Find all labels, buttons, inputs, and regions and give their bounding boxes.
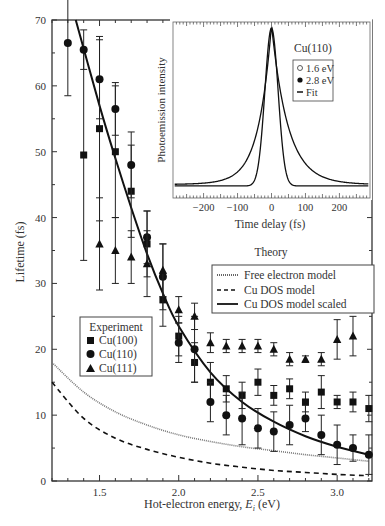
y-tick-label: 50 [35,146,47,158]
inset-legend-2-8ev: 2.8 eV [306,75,334,86]
inset-x-tick-label: −200 [193,202,215,213]
data-point-cu111 [349,332,357,340]
data-point-cu110 [222,411,230,419]
data-point-cu100 [349,398,356,405]
data-point-cu110 [349,444,357,452]
data-point-cu110 [333,441,341,449]
y-tick-label: 20 [35,343,47,355]
data-point-cu110 [80,46,88,54]
y-tick-label: 40 [35,212,47,224]
y-axis-label: Lifetime (fs) [13,222,27,283]
lifetime-chart: 0102030405060701.52.02.53.0 Lifetime (fs… [0,0,385,526]
legend-entry-cu110: Cu(110) [99,348,137,361]
data-point-cu100 [318,389,325,396]
data-point-cu110 [127,161,135,169]
square-marker-icon [87,337,94,344]
inset-legend-fit: Fit [306,87,318,98]
data-point-cu110 [111,105,119,113]
legend-entry-cu100: Cu(100) [99,334,138,347]
legend-entry-cu111: Cu(111) [99,362,137,375]
theory-legend: Theory Free electron model Cu DOS model … [212,246,374,313]
open-circle-marker-icon [298,66,303,71]
experiment-legend: Experiment Cu(100) Cu(110) Cu(111) [80,317,152,376]
y-tick-label: 70 [35,14,47,26]
inset-legend-1-6ev: 1.6 eV [306,63,334,74]
data-point-cu111 [254,341,262,349]
data-point-cu111 [127,253,135,261]
data-point-cu111 [175,305,183,313]
legend-entry-cu-dos: Cu DOS model [244,284,315,296]
filled-circle-marker-icon [297,77,302,82]
inset-x-axis-label: Time delay (fs) [235,218,306,231]
data-point-cu111 [159,266,167,274]
inset-y-axis-label: Photoemission intensity [155,57,167,163]
data-point-cu100 [112,148,119,155]
data-point-cu110 [270,428,278,436]
y-tick-label: 0 [41,475,47,487]
x-tick-label: 1.5 [93,486,107,498]
circle-marker-icon [87,350,95,358]
x-axis-label: Hot-electron energy, Ei (eV) [144,497,280,513]
inset-x-tick-label: −100 [227,202,249,213]
inset-x-tick-label: 200 [332,202,348,213]
data-point-cu110 [365,451,373,459]
data-point-cu111 [95,239,103,247]
data-point-cu111 [285,355,293,363]
data-point-cu111 [206,338,214,346]
data-point-cu111 [111,246,119,254]
data-point-cu111 [238,341,246,349]
data-point-cu110 [317,431,325,439]
y-tick-label: 30 [35,277,47,289]
data-point-cu100 [334,398,341,405]
y-tick-label: 60 [35,80,47,92]
experiment-legend-title: Experiment [89,321,143,334]
inset-x-tick-label: 100 [298,202,314,213]
data-point-cu111 [222,341,230,349]
legend-entry-free-electron: Free electron model [244,269,336,281]
inset-plot: −200−1000100200 Photoemission intensity … [155,18,372,231]
data-point-cu110 [238,414,246,422]
data-point-cu111 [333,335,341,343]
data-point-cu110 [254,424,262,432]
data-point-cu100 [286,385,293,392]
theory-legend-title: Theory [254,246,287,259]
data-point-cu110 [191,345,199,353]
data-point-cu110 [175,339,183,347]
x-tick-label: 3.0 [330,486,344,498]
data-point-cu100 [223,385,230,392]
data-point-cu110 [286,421,294,429]
data-point-cu100 [302,398,309,405]
data-point-cu111 [270,345,278,353]
inset-legend-title: Cu(110) [294,42,332,55]
data-point-cu100 [254,379,261,386]
data-point-cu100 [365,405,372,412]
legend-entry-cu-dos-scaled: Cu DOS model scaled [244,298,347,310]
y-tick-label: 10 [35,409,47,421]
inset-x-tick-label: 0 [269,202,274,213]
data-point-cu100 [96,125,103,132]
data-point-cu110 [301,414,309,422]
data-point-cu111 [317,355,325,363]
data-point-cu110 [96,75,104,83]
data-point-cu110 [206,398,214,406]
data-point-cu100 [80,152,87,159]
data-point-cu110 [64,39,72,47]
data-point-cu100 [270,392,277,399]
